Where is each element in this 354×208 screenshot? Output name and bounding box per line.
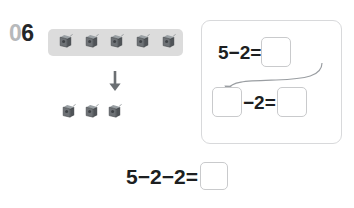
problem-number-suffix: 6: [21, 20, 33, 46]
gray-cube-icon: [131, 33, 151, 53]
gray-cube-icon: [105, 33, 125, 53]
gray-cube-icon: [80, 33, 100, 53]
step-one-equation: 5−2=: [218, 37, 291, 67]
gray-cube-icon: [54, 33, 74, 53]
down-arrow-icon: [106, 70, 124, 94]
cube-group-bottom: [57, 101, 123, 125]
problem-number-prefix: 0: [9, 20, 21, 46]
main-equation-expression: 5−2−2=: [126, 166, 198, 187]
step-two-equation: −2=: [212, 87, 307, 117]
main-equation-answer-box[interactable]: [200, 162, 228, 190]
gray-cube-icon: [80, 103, 100, 123]
cube-group-top: [48, 29, 183, 56]
step-two-first-box[interactable]: [212, 87, 242, 117]
step-one-answer-box[interactable]: [261, 37, 291, 67]
gray-cube-icon: [157, 33, 177, 53]
step-two-expression: −2=: [243, 93, 276, 112]
gray-cube-icon: [57, 103, 77, 123]
highlighted-cube-band: [48, 29, 183, 56]
gray-cube-icon: [103, 103, 123, 123]
work-panel: 5−2= −2=: [201, 20, 342, 144]
main-equation: 5−2−2=: [0, 162, 354, 190]
step-one-expression: 5−2=: [218, 43, 261, 62]
step-two-answer-box[interactable]: [277, 87, 307, 117]
problem-number: 06: [9, 22, 34, 45]
